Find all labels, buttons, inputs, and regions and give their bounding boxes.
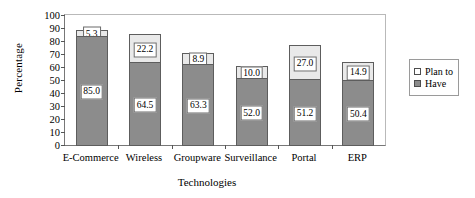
x-axis-category-label: Wireless bbox=[126, 152, 162, 163]
bar-wireless[interactable]: 22.264.5 bbox=[129, 34, 161, 145]
legend-item-plan-to[interactable]: Plan to bbox=[414, 66, 453, 77]
x-axis-tick-mark bbox=[172, 145, 173, 149]
chart-container: Percentage Technologies 1009080706050403… bbox=[0, 0, 475, 198]
bar-segment-have[interactable]: 64.5 bbox=[129, 62, 161, 146]
legend-label: Have bbox=[425, 78, 446, 89]
x-axis-category-label: Portal bbox=[291, 152, 316, 163]
y-axis-tick-mark bbox=[61, 67, 65, 68]
bar-value-label-have: 85.0 bbox=[80, 84, 103, 99]
y-axis-tick-mark bbox=[61, 145, 65, 146]
x-axis-category-label: Groupware bbox=[174, 152, 221, 163]
bar-value-label-have: 52.0 bbox=[240, 106, 263, 121]
bar-segment-plan-to[interactable]: 22.2 bbox=[129, 34, 161, 63]
bar-segment-have[interactable]: 63.3 bbox=[182, 64, 214, 146]
bar-surveillance[interactable]: 10.052.0 bbox=[236, 66, 268, 145]
bar-segment-have[interactable]: 50.4 bbox=[342, 80, 374, 146]
x-axis-tick-mark bbox=[118, 145, 119, 149]
x-axis-category-label: Surveillance bbox=[224, 152, 276, 163]
bar-segment-plan-to[interactable]: 14.9 bbox=[342, 62, 374, 81]
bar-segment-have[interactable]: 85.0 bbox=[76, 36, 108, 147]
bar-value-label-plan-to: 27.0 bbox=[294, 56, 317, 71]
bar-segment-have[interactable]: 52.0 bbox=[236, 78, 268, 146]
y-axis-tick-mark bbox=[61, 119, 65, 120]
y-axis-tick-mark bbox=[61, 93, 65, 94]
y-axis-tick-mark bbox=[61, 132, 65, 133]
bar-value-label-have: 50.4 bbox=[347, 107, 370, 122]
bar-segment-plan-to[interactable]: 27.0 bbox=[289, 45, 321, 80]
x-axis-tick-mark bbox=[225, 145, 226, 149]
legend-swatch-icon bbox=[414, 68, 421, 75]
plot-inner: 10090807060504030201005.385.022.264.58.9… bbox=[65, 15, 385, 145]
bar-portal[interactable]: 27.051.2 bbox=[289, 45, 321, 145]
bar-groupware[interactable]: 8.963.3 bbox=[182, 53, 214, 145]
bar-value-label-have: 51.2 bbox=[294, 106, 317, 121]
bar-value-label-plan-to: 22.2 bbox=[134, 42, 157, 57]
legend-swatch-icon bbox=[414, 80, 421, 87]
x-axis-category-label: ERP bbox=[348, 152, 367, 163]
y-axis-title: Percentage bbox=[12, 23, 24, 113]
x-axis-category-label: E-Commerce bbox=[63, 152, 119, 163]
chart-legend: Plan toHave bbox=[409, 59, 459, 96]
legend-item-have[interactable]: Have bbox=[414, 78, 453, 89]
y-axis-tick-mark bbox=[61, 28, 65, 29]
y-axis-tick-mark bbox=[61, 41, 65, 42]
bar-value-label-have: 63.3 bbox=[187, 98, 210, 113]
bar-segment-have[interactable]: 51.2 bbox=[289, 79, 321, 146]
x-axis-tick-mark bbox=[332, 145, 333, 149]
y-axis-tick-mark bbox=[61, 106, 65, 107]
x-axis-tick-mark bbox=[278, 145, 279, 149]
bar-value-label-plan-to: 14.9 bbox=[347, 65, 370, 80]
bar-value-label-have: 64.5 bbox=[134, 98, 157, 113]
legend-label: Plan to bbox=[425, 66, 453, 77]
x-axis-title: Technologies bbox=[0, 176, 414, 188]
plot-area: 10090807060504030201005.385.022.264.58.9… bbox=[64, 14, 386, 146]
bar-e-commerce[interactable]: 5.385.0 bbox=[76, 30, 108, 145]
bar-erp[interactable]: 14.950.4 bbox=[342, 62, 374, 145]
y-axis-tick-mark bbox=[61, 15, 65, 16]
y-axis-tick-mark bbox=[61, 54, 65, 55]
y-axis-tick-mark bbox=[61, 80, 65, 81]
